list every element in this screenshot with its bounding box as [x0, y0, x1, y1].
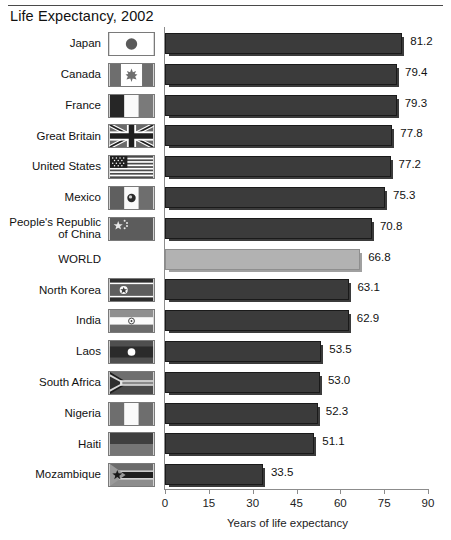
bar-value-label: 53.5 — [329, 343, 351, 355]
bar — [165, 279, 349, 300]
flag-india-icon — [108, 309, 155, 333]
bar — [165, 433, 314, 454]
category-label-line: Laos — [76, 345, 101, 358]
life-expectancy-chart: Life Expectancy, 2002 Japan81.2Canada79.… — [0, 0, 451, 540]
bar — [165, 403, 318, 424]
bar-value-label: 70.8 — [380, 220, 402, 232]
x-tick-label: 90 — [422, 497, 435, 509]
chart-row: Laos53.5 — [0, 337, 451, 366]
bar-value-label: 63.1 — [357, 281, 379, 293]
bar — [165, 125, 392, 146]
chart-row: France79.3 — [0, 91, 451, 120]
category-label: Nigeria — [0, 399, 101, 428]
chart-row: Mozambique33.5 — [0, 460, 451, 489]
category-label-line: Haiti — [78, 438, 101, 451]
bar-world — [165, 249, 360, 270]
bar — [165, 341, 321, 362]
category-label: North Korea — [0, 275, 101, 304]
chart-row: South Africa53.0 — [0, 368, 451, 397]
bar-value-label: 66.8 — [368, 251, 390, 263]
bar-value-label: 75.3 — [393, 189, 415, 201]
page-title: Life Expectancy, 2002 — [10, 8, 154, 24]
x-axis-title-text: Years of life expectancy — [227, 517, 348, 529]
flag-south-africa-icon — [108, 371, 155, 395]
x-tick — [165, 489, 166, 494]
x-tick-label: 0 — [162, 497, 168, 509]
bar — [165, 64, 397, 85]
chart-row: North Korea63.1 — [0, 275, 451, 304]
category-label: WORLD — [0, 245, 101, 274]
x-tick — [297, 489, 298, 494]
bar — [165, 310, 349, 331]
category-label-line: United States — [32, 160, 101, 173]
x-tick — [209, 489, 210, 494]
category-label-line: Canada — [61, 68, 101, 81]
x-tick — [428, 489, 429, 494]
bar-value-label: 62.9 — [357, 312, 379, 324]
bar — [165, 372, 320, 393]
category-label-line: WORLD — [58, 253, 101, 266]
bar — [165, 156, 391, 177]
category-label-line: People's Republic — [9, 216, 101, 229]
bar-value-label: 33.5 — [271, 466, 293, 478]
chart-row: Mexico75.3 — [0, 183, 451, 212]
bar — [165, 187, 385, 208]
category-label-line: Mozambique — [35, 468, 101, 481]
bar — [165, 33, 402, 54]
bar-value-label: 51.1 — [322, 435, 344, 447]
category-label: India — [0, 306, 101, 335]
category-label-line: North Korea — [39, 284, 101, 297]
bar-value-label: 53.0 — [328, 374, 350, 386]
flag-china-icon — [108, 217, 155, 241]
category-label-line: France — [65, 99, 101, 112]
chart-row: India62.9 — [0, 306, 451, 335]
category-label-line: Nigeria — [65, 407, 101, 420]
flag-canada-icon — [108, 63, 155, 87]
flag-great-britain-icon — [108, 124, 155, 148]
x-tick — [253, 489, 254, 494]
flag-united-states-icon — [108, 155, 155, 179]
category-label-line: South Africa — [39, 376, 101, 389]
bar-value-label: 77.2 — [399, 158, 421, 170]
category-label: People's Republicof China — [0, 214, 101, 243]
chart-row: Canada79.4 — [0, 60, 451, 89]
x-tick-label: 75 — [378, 497, 391, 509]
flag-mozambique-icon — [108, 463, 155, 487]
chart-row: Japan81.2 — [0, 29, 451, 58]
bar-value-label: 77.8 — [400, 127, 422, 139]
bar-value-label: 52.3 — [326, 405, 348, 417]
category-label-line: Great Britain — [36, 130, 101, 143]
category-label: France — [0, 91, 101, 120]
flag-mexico-icon — [108, 186, 155, 210]
flag-nigeria-icon — [108, 402, 155, 426]
flag-france-icon — [108, 94, 155, 118]
x-tick — [340, 489, 341, 494]
bar — [165, 464, 263, 485]
chart-row: United States77.2 — [0, 152, 451, 181]
category-label-line: Japan — [70, 37, 101, 50]
category-label: Mexico — [0, 183, 101, 212]
x-tick-label: 30 — [246, 497, 259, 509]
bar-value-label: 79.3 — [405, 97, 427, 109]
category-label-line: Mexico — [65, 191, 101, 204]
flag-laos-icon — [108, 340, 155, 364]
x-tick-label: 60 — [334, 497, 347, 509]
chart-row: WORLD66.8 — [0, 245, 451, 274]
category-label: United States — [0, 152, 101, 181]
flag-haiti-icon — [108, 432, 155, 456]
plot-area: Japan81.2Canada79.4France79.3Great Brita… — [0, 27, 451, 492]
category-label: Mozambique — [0, 460, 101, 489]
category-label-line: of China — [9, 228, 101, 241]
chart-row: Great Britain77.8 — [0, 121, 451, 150]
category-label-line: India — [76, 314, 101, 327]
category-label: Laos — [0, 337, 101, 366]
x-axis-title: Years of life expectancy — [0, 517, 451, 529]
x-tick-label: 45 — [290, 497, 303, 509]
chart-row: Haiti51.1 — [0, 429, 451, 458]
category-label: South Africa — [0, 368, 101, 397]
category-label: Haiti — [0, 429, 101, 458]
category-label: Japan — [0, 29, 101, 58]
y-axis-line — [164, 27, 165, 489]
flag-japan-icon — [108, 32, 155, 56]
category-label: Canada — [0, 60, 101, 89]
